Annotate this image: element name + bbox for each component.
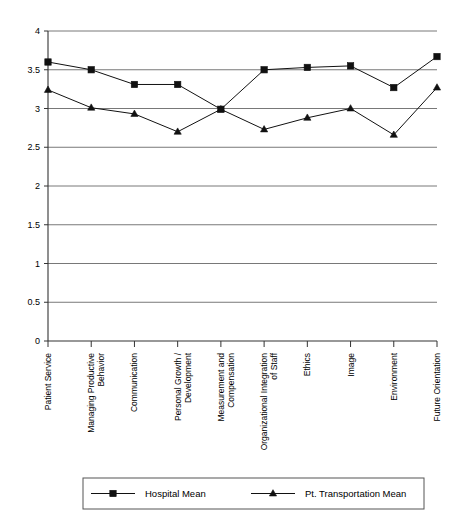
legend-entry[interactable]: Hospital Mean — [91, 488, 206, 499]
data-point-marker — [347, 63, 353, 69]
legend-triangle-icon — [269, 490, 276, 496]
x-category-label: Future Orientation — [432, 353, 442, 422]
data-point-marker — [174, 81, 180, 87]
y-tick-label: 0.5 — [27, 297, 40, 307]
data-point-marker — [45, 59, 51, 65]
x-category-label-line: Future Orientation — [432, 353, 442, 422]
x-category-label-line: Development — [183, 352, 193, 403]
series-line — [48, 88, 437, 135]
y-axis-tick-labels: 00.511.522.533.54 — [27, 26, 40, 346]
x-category-label-line: of Staff — [269, 352, 279, 379]
x-category-label-line: Patient Service — [43, 353, 53, 410]
x-category-label-line: Ethics — [302, 353, 312, 376]
x-category-label-line: Communication — [129, 353, 139, 412]
x-category-label-line: Organizational Integration — [259, 353, 269, 451]
series-2 — [44, 84, 440, 138]
x-category-label: Image — [346, 353, 356, 377]
x-category-label: Environment — [389, 352, 399, 400]
y-axis — [44, 31, 48, 341]
x-axis-tick-marks — [48, 341, 437, 347]
chart-legend: Hospital MeanPt. Transportation Mean — [83, 478, 424, 509]
x-category-label-line: Measurement and — [216, 353, 226, 422]
chart-container: 00.511.522.533.54 Patient ServiceManagin… — [0, 0, 459, 528]
x-category-label: Communication — [129, 353, 139, 412]
data-point-marker — [88, 67, 94, 73]
series-plot-area — [44, 53, 440, 137]
y-tick-label: 1 — [35, 259, 40, 269]
x-category-label-line: Compensation — [226, 353, 236, 408]
data-point-marker — [44, 86, 51, 92]
line-chart: 00.511.522.533.54 Patient ServiceManagin… — [0, 0, 459, 528]
x-category-label-line: Managing Productive — [86, 353, 96, 433]
series-line — [48, 57, 437, 110]
legend-label: Hospital Mean — [145, 488, 206, 499]
data-point-marker — [304, 64, 310, 70]
y-tick-label: 2.5 — [27, 142, 40, 152]
series-1 — [45, 53, 440, 112]
x-category-label: Patient Service — [43, 353, 53, 410]
x-category-label: Ethics — [302, 353, 312, 376]
x-category-label-line: Environment — [389, 352, 399, 400]
data-point-marker — [347, 105, 354, 111]
x-category-label-line: Behavior — [96, 353, 106, 387]
legend-square-icon — [110, 490, 116, 496]
y-tick-label: 1.5 — [27, 220, 40, 230]
legend-label: Pt. Transportation Mean — [305, 488, 406, 499]
x-category-label: Measurement andCompensation — [216, 353, 236, 422]
data-point-marker — [131, 81, 137, 87]
x-category-label: Managing ProductiveBehavior — [86, 353, 106, 433]
x-category-label: Organizational Integrationof Staff — [259, 352, 279, 450]
legend-entry[interactable]: Pt. Transportation Mean — [251, 488, 406, 499]
x-category-label-line: Personal Growth / — [173, 352, 183, 421]
y-tick-label: 2 — [35, 181, 40, 191]
data-point-marker — [261, 67, 267, 73]
y-tick-label: 3.5 — [27, 65, 40, 75]
gridlines — [48, 31, 437, 302]
x-axis-category-labels: Patient ServiceManaging ProductiveBehavi… — [43, 352, 442, 450]
y-tick-label: 4 — [35, 26, 40, 36]
x-category-label: Personal Growth /Development — [173, 352, 193, 421]
x-category-label-line: Image — [346, 353, 356, 377]
data-point-marker — [433, 84, 440, 90]
data-point-marker — [391, 84, 397, 90]
data-point-marker — [434, 53, 440, 59]
y-tick-label: 0 — [35, 336, 40, 346]
y-tick-label: 3 — [35, 104, 40, 114]
